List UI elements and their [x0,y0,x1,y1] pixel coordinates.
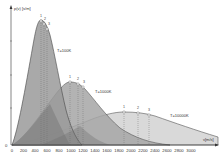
maxwell-distribution-chart: 1 2 3 1 2 3 1 2 3 T=100K T=1000K T=10000… [0,0,221,158]
svg-text:0: 0 [11,148,14,153]
y-axis-label: p(v) [s/m] [14,6,31,11]
y-tick-zero: 0 [5,143,8,148]
marker-label-3: 3 [148,108,150,112]
svg-text:800: 800 [56,148,64,153]
svg-text:200: 200 [20,148,28,153]
marker-label-2: 2 [44,17,46,21]
svg-text:3000: 3000 [186,148,196,153]
svg-text:2400: 2400 [150,148,160,153]
marker-label-3: 3 [83,80,85,84]
marker-label-2: 2 [137,106,139,110]
marker-label-1: 1 [40,14,42,18]
curve-label-t10000k: T=10000K [170,113,189,118]
marker-label-2: 2 [77,77,79,81]
svg-text:1400: 1400 [90,148,100,153]
marker-label-1: 1 [69,75,71,79]
marker-label-3: 3 [48,22,50,26]
svg-text:1200: 1200 [78,148,88,153]
x-axis-label: v[m/s] [203,137,214,142]
svg-text:400: 400 [32,148,40,153]
svg-text:1600: 1600 [102,148,112,153]
svg-text:1800: 1800 [114,148,124,153]
curve-label-t1000k: T=1000K [95,89,112,94]
svg-text:2200: 2200 [138,148,148,153]
x-tick-labels: 0 200 400 600 800 1000 1200 1400 1600 18… [11,148,196,153]
curve-label-t100k: T=100K [57,48,71,53]
svg-text:1000: 1000 [66,148,76,153]
svg-text:2600: 2600 [162,148,172,153]
marker-label-1: 1 [123,105,125,109]
svg-text:2800: 2800 [174,148,184,153]
y-axis-arrow-icon [10,5,13,9]
svg-text:2000: 2000 [126,148,136,153]
svg-text:600: 600 [44,148,52,153]
